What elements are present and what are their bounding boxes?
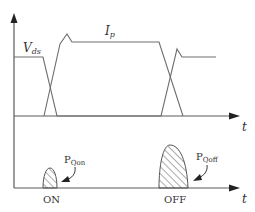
off-loss-area: [159, 145, 188, 188]
vertical-axis: [11, 13, 18, 188]
arrow-pointer-icon: [193, 174, 202, 181]
vds-waveform: [14, 49, 216, 116]
off-event-label: OFF: [164, 194, 186, 205]
ip-label: Ip: [104, 24, 115, 39]
off-loss-label: PQoff: [196, 151, 219, 164]
on-event-label: ON: [43, 194, 60, 205]
upper-time-label: t: [242, 120, 247, 134]
arrow-pointer-icon: [61, 176, 70, 182]
ip-waveform: [44, 34, 183, 116]
arrow-up-icon: [11, 13, 18, 23]
vds-label: Vds: [23, 41, 41, 56]
arrow-right-icon: [229, 113, 240, 120]
lower-time-label: t: [242, 192, 247, 206]
on-loss-label: PQon: [64, 154, 86, 167]
switching-waveform-diagram: t t Vds Ip PQon PQoff ON OFF: [0, 0, 255, 212]
on-loss-area: [43, 168, 57, 188]
arrow-right-icon: [229, 185, 240, 192]
